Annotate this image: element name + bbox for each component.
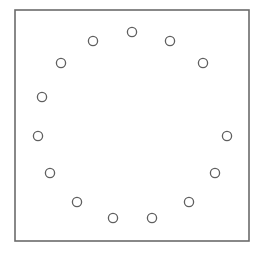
circle-ring — [33, 27, 231, 222]
diagram-canvas — [0, 0, 261, 254]
ring-circle-9 — [72, 197, 81, 206]
ring-circle-11 — [33, 131, 42, 140]
ring-circle-6 — [184, 197, 193, 206]
square-frame — [15, 10, 249, 241]
ring-circle-7 — [147, 213, 156, 222]
ring-circle-13 — [56, 58, 65, 67]
ring-circle-10 — [45, 168, 54, 177]
ring-circle-4 — [222, 131, 231, 140]
ring-circle-8 — [108, 213, 117, 222]
ring-circle-3 — [198, 58, 207, 67]
ring-circle-5 — [210, 168, 219, 177]
ring-circle-14 — [88, 36, 97, 45]
ring-circle-12 — [37, 92, 46, 101]
ring-circle-1 — [127, 27, 136, 36]
ring-circle-2 — [165, 36, 174, 45]
